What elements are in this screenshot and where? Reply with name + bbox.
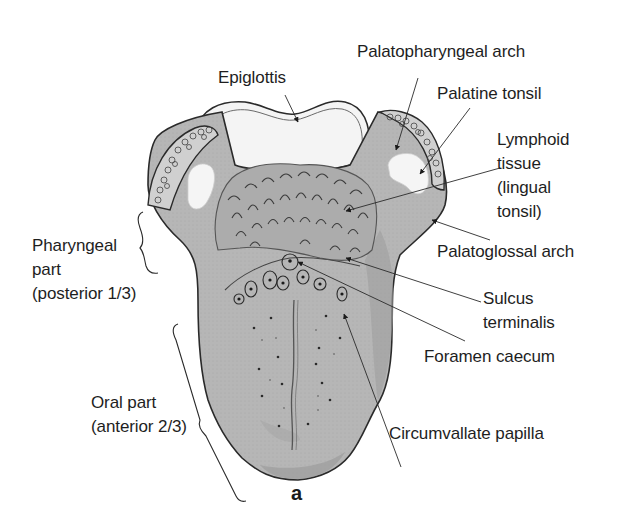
label-pharyngeal-part: Pharyngeal part (posterior 1/3) (32, 234, 136, 306)
label-palatopharyngeal-arch: Palatopharyngeal arch (357, 42, 525, 62)
tongue-diagram: Epiglottis Palatopharyngeal arch Palatin… (0, 0, 634, 523)
label-sulcus-terminalis: Sulcus terminalis (483, 287, 555, 335)
label-palatine-tonsil: Palatine tonsil (437, 84, 541, 104)
label-palatoglossal-arch: Palatoglossal arch (437, 242, 574, 262)
panel-letter: a (291, 482, 302, 505)
label-oral-part: Oral part (anterior 2/3) (91, 391, 187, 439)
pharyngeal-part-bracket (138, 212, 158, 273)
label-lymphoid-tissue: Lymphoid tissue (lingual tonsil) (497, 128, 569, 224)
label-foramen-caecum: Foramen caecum (424, 347, 555, 367)
label-epiglottis: Epiglottis (218, 68, 286, 88)
label-circumvallate-papilla: Circumvallate papilla (389, 424, 544, 444)
